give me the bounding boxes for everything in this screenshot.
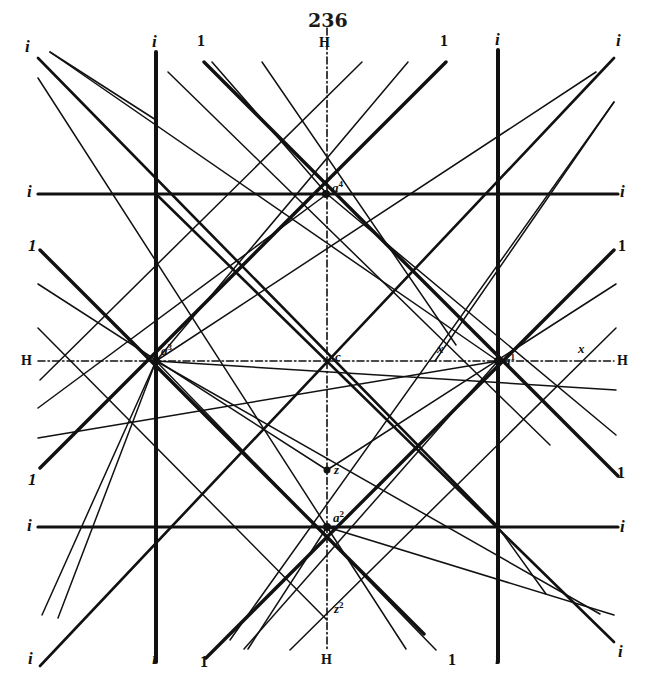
label-l-x2: x <box>578 342 585 355</box>
label-l-i-bv: i <box>152 650 157 667</box>
thin-line <box>327 527 406 649</box>
geometric-figure <box>0 0 655 687</box>
label-l-i-mr: i <box>620 183 625 200</box>
label-l-H-bot: H <box>321 653 332 667</box>
thin-line <box>230 102 614 640</box>
point-a3 <box>152 357 160 365</box>
label-l-z: z <box>334 463 339 476</box>
thin-line <box>42 361 156 615</box>
point-a4 <box>322 190 330 198</box>
label-l-i-bv2: i <box>495 650 500 667</box>
thin-line <box>156 72 596 361</box>
label-l-a4: a4 <box>332 180 343 194</box>
label-l-H-top: H <box>319 36 330 50</box>
thin-line <box>262 62 456 345</box>
thin-line <box>168 72 550 445</box>
diag-i-bottomright-corner <box>156 194 614 642</box>
label-l-1-r: 1 <box>618 238 626 254</box>
label-l-1-t2: 1 <box>440 33 448 49</box>
label-l-i-tv: i <box>152 33 157 50</box>
thin-line <box>248 527 327 649</box>
label-l-1-b2: 1 <box>448 652 456 668</box>
thin-line <box>156 361 616 390</box>
thin-line <box>50 52 498 361</box>
label-l-i-bl: i <box>27 517 32 534</box>
label-l-a2: a2 <box>333 510 344 524</box>
label-l-1-br: 1 <box>617 465 625 481</box>
diag-1-topleft <box>204 62 618 476</box>
label-l-a1: a1 <box>504 353 515 367</box>
label-l-1-l: 1 <box>28 237 37 254</box>
label-l-i-ml: i <box>27 183 32 200</box>
point-z <box>324 467 331 474</box>
point-a1 <box>494 357 502 365</box>
label-l-i-br: i <box>620 518 625 535</box>
thin-line <box>38 284 327 470</box>
label-l-i-tr: i <box>616 32 621 49</box>
label-l-1-b1: 1 <box>200 654 208 670</box>
point-c <box>325 359 329 363</box>
label-l-1-t1: 1 <box>197 33 205 49</box>
label-l-i-bbr: i <box>618 643 623 660</box>
label-l-i-tl: i <box>25 38 30 55</box>
label-l-H-l: H <box>21 354 32 368</box>
label-l-a3: a3 <box>161 343 172 357</box>
diag-1-left <box>40 250 424 634</box>
label-l-z2: z2 <box>334 601 344 615</box>
label-l-x: x <box>437 342 444 355</box>
thin-line <box>38 328 327 620</box>
point-a2 <box>323 523 331 531</box>
label-l-1-bl: 1 <box>28 471 37 488</box>
thin-line <box>327 284 616 470</box>
label-l-H-r: H <box>617 354 628 368</box>
label-l-i-bbl: i <box>28 650 33 667</box>
label-l-c: c <box>335 350 341 363</box>
label-l-i-tv2: i <box>495 31 500 48</box>
